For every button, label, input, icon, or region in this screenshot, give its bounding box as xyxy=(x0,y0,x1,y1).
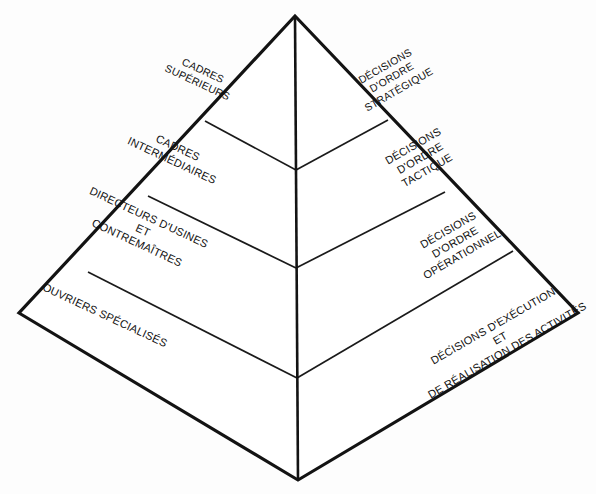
pyramid-graphic xyxy=(0,0,596,494)
pyramid-diagram: CADRES SUPÉRIEURS DÉCISIONS D'ORDRE STRA… xyxy=(0,0,596,494)
